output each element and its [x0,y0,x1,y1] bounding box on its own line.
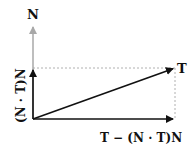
t-vector-arrow [33,69,173,119]
t-label: T [177,61,187,76]
vector-projection-diagram: N T T − (N · T)N (N · T)N [0,0,192,150]
tangential-component-label: T − (N · T)N [100,131,182,145]
normal-component-label: (N · T)N [14,68,28,123]
n-label: N [27,7,39,22]
